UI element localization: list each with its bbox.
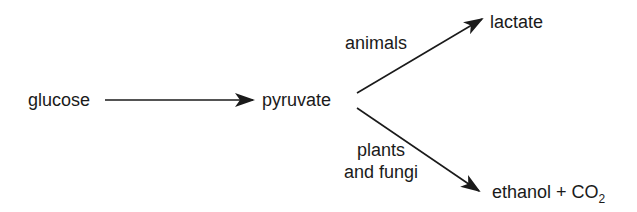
node-pyruvate: pyruvate (262, 90, 331, 110)
fermentation-diagram: glucose pyruvate lactate ethanol + CO2 a… (0, 0, 637, 212)
edge-label-plants: plants (357, 140, 405, 160)
node-glucose: glucose (28, 90, 90, 110)
edge-label-animals: animals (345, 33, 407, 53)
co2-subscript: 2 (599, 192, 606, 206)
node-ethanol-co2: ethanol + CO2 (492, 182, 606, 206)
node-lactate: lactate (490, 12, 543, 32)
ethanol-co2-main: ethanol + CO (492, 182, 599, 202)
arrow-pyruvate-to-lactate (357, 19, 482, 93)
edge-label-and-fungi: and fungi (344, 162, 418, 182)
